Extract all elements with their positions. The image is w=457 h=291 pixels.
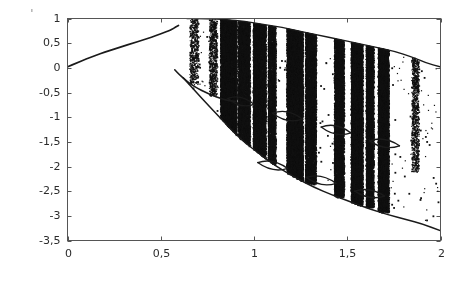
figure-root: ζ A (0, 0, 457, 291)
bifurcation-diagram-canvas (0, 0, 457, 291)
